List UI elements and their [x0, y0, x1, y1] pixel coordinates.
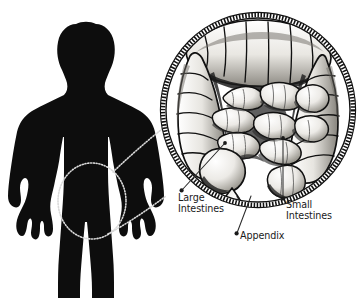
label-small-intestines-line1: Small	[286, 199, 332, 210]
label-small-intestines-line2: Intestines	[286, 210, 332, 221]
label-small-intestines: Small Intestines	[286, 199, 332, 221]
leader-dot-small-intestines	[281, 197, 285, 201]
label-appendix-line1: Appendix	[240, 230, 284, 241]
label-large-intestines-line2: Intestines	[178, 203, 224, 214]
label-large-intestines-line1: Large	[178, 192, 224, 203]
anchor-dot-small-intestines	[281, 136, 285, 140]
label-appendix: Appendix	[240, 230, 284, 241]
anatomy-figure: Large Intestines Appendix Small Intestin…	[0, 0, 361, 302]
figure-artwork	[0, 0, 361, 302]
body-silhouette	[8, 22, 164, 298]
leader-dot-appendix	[235, 231, 239, 235]
label-large-intestines: Large Intestines	[178, 192, 224, 214]
anchor-dot-large-intestines	[223, 141, 227, 145]
